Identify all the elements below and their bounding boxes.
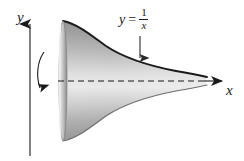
equation-fraction: 1 x [139, 7, 149, 31]
fraction-numerator: 1 [139, 7, 149, 19]
x-axis-label: x [226, 83, 233, 98]
curved-revolution-arrow-icon [38, 52, 44, 88]
solid-of-revolution-figure: y x y = 1 x [0, 0, 244, 161]
equation-equals: = [128, 13, 136, 27]
curve-equation-label: y = 1 x [119, 8, 149, 32]
rotation-arrow [38, 52, 44, 88]
fraction-denominator: x [139, 19, 148, 32]
y-axis-label: y [17, 10, 24, 25]
equation-lhs: y [119, 13, 125, 27]
horn-body-depth-overlay [63, 21, 206, 141]
